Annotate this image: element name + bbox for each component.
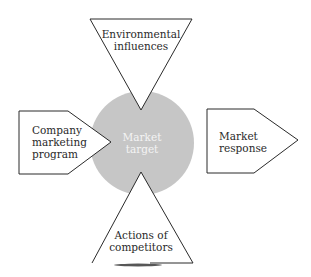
- left-label-line3: program: [32, 148, 87, 160]
- center-label-line2: target: [117, 143, 167, 155]
- center-label: Market target: [117, 131, 167, 155]
- bottom-label-line1: Actions of: [106, 229, 176, 241]
- top-label: Environmental influences: [100, 28, 182, 52]
- right-label: Market response: [219, 130, 267, 154]
- left-label-line1: Company: [32, 124, 87, 136]
- left-label: Company marketing program: [32, 124, 87, 160]
- top-label-line2: influences: [100, 40, 182, 52]
- shadow-smudge: [114, 264, 162, 267]
- left-label-line2: marketing: [32, 136, 87, 148]
- right-label-line2: response: [219, 142, 267, 154]
- right-label-line1: Market: [219, 130, 267, 142]
- bottom-label: Actions of competitors: [106, 229, 176, 253]
- bottom-label-line2: competitors: [106, 241, 176, 253]
- center-label-line1: Market: [117, 131, 167, 143]
- top-label-line1: Environmental: [100, 28, 182, 40]
